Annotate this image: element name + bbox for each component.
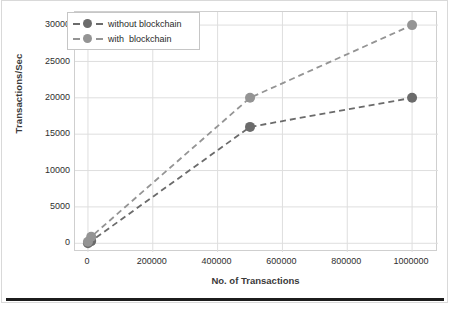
x-axis-tick-labels: 02000004000006000008000001000000 [74,256,437,270]
legend-dot [83,19,92,28]
y-tick-label: 5000 [24,201,70,211]
legend-dash-right [96,23,103,25]
figure-page: Transactions/Sec 05000100001500020000250… [0,0,450,311]
series-line [88,25,412,242]
legend-marker-icon [72,32,104,45]
x-tick-label: 200000 [117,256,187,266]
data-point[interactable] [245,122,255,132]
chart-figure: Transactions/Sec 05000100001500020000250… [0,0,450,300]
x-axis-title: No. of Transactions [74,275,437,286]
legend-dash-right [96,38,103,40]
bottom-divider-rule [6,298,444,301]
legend-label: without blockchain [104,19,182,29]
legend-label: with blockchain [104,34,172,44]
y-tick-label: 20000 [24,92,70,102]
legend-dot [83,34,92,43]
y-tick-label: 30000 [24,19,70,29]
legend-marker-icon [72,17,104,30]
legend-item[interactable]: with blockchain [72,31,195,46]
data-point[interactable] [407,93,417,103]
data-point[interactable] [245,93,255,103]
data-point[interactable] [407,20,417,30]
x-tick-label: 600000 [246,256,316,266]
x-tick-label: 1000000 [376,256,446,266]
y-tick-label: 15000 [24,128,70,138]
y-tick-label: 25000 [24,56,70,66]
series-1 [83,20,417,247]
x-tick-label: 0 [52,256,122,266]
legend-dash-left [73,23,80,25]
chart-legend[interactable]: without blockchainwith blockchain [67,12,200,50]
data-point[interactable] [86,232,96,242]
y-tick-label: 0 [24,237,70,247]
x-tick-label: 400000 [182,256,252,266]
y-axis-tick-labels: 050001000015000200002500030000 [20,11,70,251]
legend-item[interactable]: without blockchain [72,16,195,31]
x-tick-label: 800000 [311,256,381,266]
y-tick-label: 10000 [24,165,70,175]
legend-dash-left [73,38,80,40]
